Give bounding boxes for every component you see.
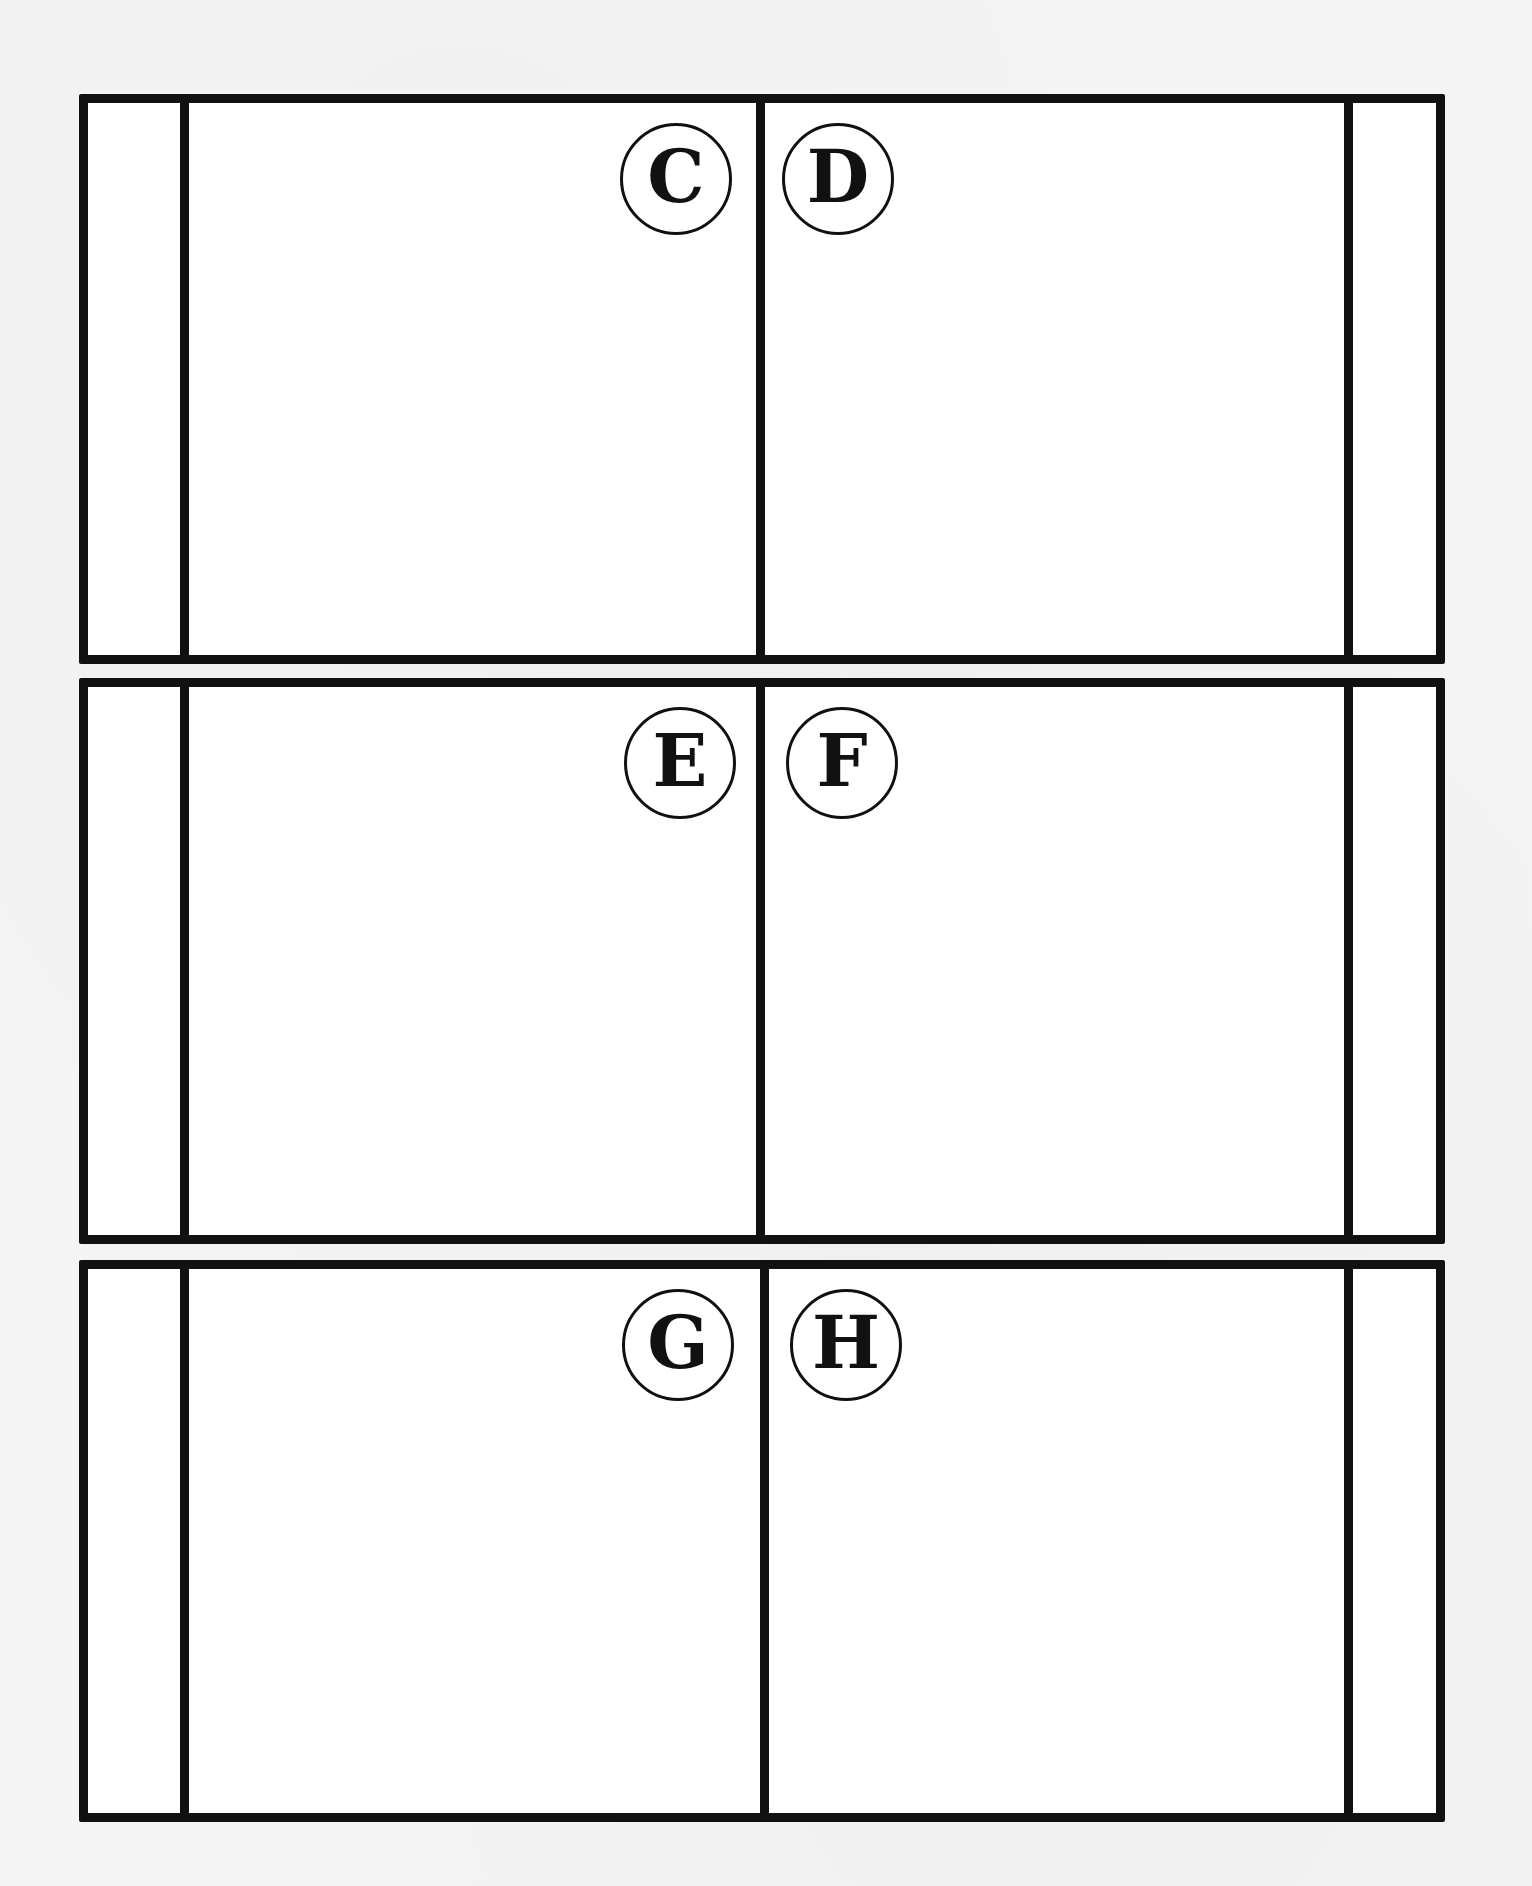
page-letter: D xyxy=(807,141,869,213)
page-letter: C xyxy=(647,141,704,213)
page-label-badge: D xyxy=(782,123,894,235)
right-fold-line xyxy=(1344,1267,1353,1815)
left-fold-line xyxy=(180,1267,189,1815)
page-letter: E xyxy=(653,725,708,797)
booklet-panel-gh: G H xyxy=(79,1260,1445,1822)
page-label-badge: F xyxy=(786,707,898,819)
page-label-badge: C xyxy=(620,123,732,235)
page-letter: F xyxy=(816,725,867,797)
page-letter: G xyxy=(647,1307,709,1379)
center-fold-line xyxy=(756,101,765,657)
worksheet-page: C D E F G H xyxy=(0,0,1532,1886)
page-letter: H xyxy=(812,1307,880,1379)
page-label-badge: E xyxy=(624,707,736,819)
page-label-badge: G xyxy=(622,1289,734,1401)
left-fold-line xyxy=(180,101,189,657)
right-fold-line xyxy=(1344,101,1353,657)
booklet-panel-ef: E F xyxy=(79,678,1445,1244)
center-fold-line xyxy=(756,685,765,1237)
left-fold-line xyxy=(180,685,189,1237)
right-fold-line xyxy=(1344,685,1353,1237)
booklet-panel-cd: C D xyxy=(79,94,1445,664)
center-fold-line xyxy=(760,1267,769,1815)
page-label-badge: H xyxy=(790,1289,902,1401)
